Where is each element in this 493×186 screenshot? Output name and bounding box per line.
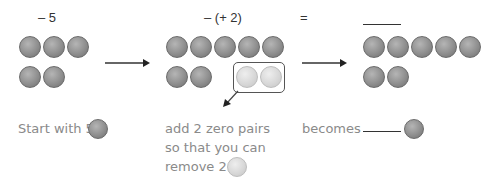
dark-counter <box>214 36 236 58</box>
dark-counter <box>190 36 212 58</box>
dark-counter <box>238 36 260 58</box>
right-arrow-icon <box>300 57 348 69</box>
dark-counter <box>43 66 65 88</box>
equals-sign: = <box>300 10 308 25</box>
answer-blank <box>363 24 401 25</box>
light-counter <box>236 66 258 88</box>
dark-counter <box>411 36 433 58</box>
right-arrow-icon <box>103 57 151 69</box>
caption-answer-blank <box>363 131 401 132</box>
dark-counter <box>435 36 457 58</box>
dark-counter <box>19 66 41 88</box>
dark-counter <box>19 36 41 58</box>
diagonal-down-left-arrow-icon <box>220 88 242 110</box>
caption-line: so that you can <box>165 138 270 157</box>
dark-counter-icon <box>404 119 424 139</box>
dark-counter <box>190 66 212 88</box>
dark-counter-icon <box>88 119 108 139</box>
caption-line: remove 2 <box>165 157 270 176</box>
caption-text: becomes <box>302 121 361 136</box>
dark-counter <box>363 36 385 58</box>
dark-counter <box>387 36 409 58</box>
dark-counter <box>459 36 481 58</box>
expression-minus-5: – 5 <box>38 10 56 25</box>
dark-counter <box>387 66 409 88</box>
dark-counter <box>166 66 188 88</box>
dark-counter <box>43 36 65 58</box>
caption-becomes: becomes <box>302 119 361 138</box>
caption-text: Start with 5 <box>18 121 94 136</box>
dark-counter <box>363 66 385 88</box>
dark-counter <box>166 36 188 58</box>
dark-counter <box>262 36 284 58</box>
light-counter <box>260 66 282 88</box>
light-counter-icon <box>227 157 247 177</box>
caption-start: Start with 5 <box>18 119 94 138</box>
caption-line: add 2 zero pairs <box>165 119 270 138</box>
caption-zero-pairs: add 2 zero pairs so that you can remove … <box>165 119 270 176</box>
dark-counter <box>67 36 89 58</box>
expression-minus-plus-2: – (+ 2) <box>204 10 242 25</box>
